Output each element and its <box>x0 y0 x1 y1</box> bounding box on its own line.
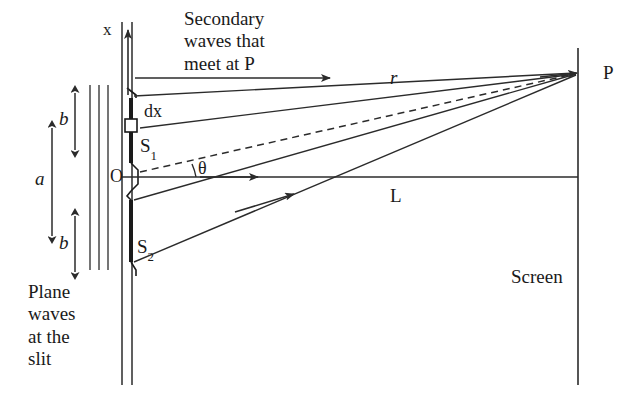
dx-label: dx <box>144 101 162 122</box>
s1-subscript: 1 <box>151 148 157 163</box>
plane-waves-line-3: at the <box>28 326 75 348</box>
x-axis-label: x <box>103 20 112 40</box>
secondary-waves-line-1: Secondary <box>184 8 265 30</box>
theta-angle-arc <box>192 164 196 177</box>
distance-r-label: r <box>390 67 397 89</box>
screen-label: Screen <box>511 266 563 288</box>
half-width-b-top-label: b <box>59 108 69 130</box>
plane-wavefront-lines <box>90 85 108 270</box>
plane-waves-line-4: slit <box>28 348 75 370</box>
theta-angle-label: θ <box>198 158 207 179</box>
plane-waves-line-2: waves <box>28 303 75 325</box>
point-p-label: P <box>603 62 614 84</box>
plane-waves-line-1: Plane <box>28 281 75 303</box>
origin-label: O <box>110 166 123 187</box>
s1-label: S1 <box>140 135 157 160</box>
plane-waves-caption: Plane waves at the slit <box>28 281 75 371</box>
diagram-canvas <box>0 0 637 407</box>
s2-subscript: 2 <box>148 249 154 264</box>
secondary-waves-line-2: waves that <box>184 30 265 52</box>
direction-arrow-lower-ray <box>235 194 294 212</box>
s2-label: S2 <box>137 236 154 261</box>
half-width-b-bottom-label: b <box>59 232 69 254</box>
distance-L-label: L <box>390 185 402 207</box>
slit-width-a-label: a <box>35 168 45 190</box>
diffraction-diagram: x Secondary waves that meet at P dx S1 O… <box>0 0 637 407</box>
s2-letter: S <box>137 236 148 257</box>
dx-element-box <box>125 119 137 132</box>
secondary-waves-line-3: meet at P <box>184 53 265 75</box>
ray-dx-to-p <box>140 74 576 128</box>
secondary-waves-caption: Secondary waves that meet at P <box>184 8 265 75</box>
s1-letter: S <box>140 135 151 156</box>
